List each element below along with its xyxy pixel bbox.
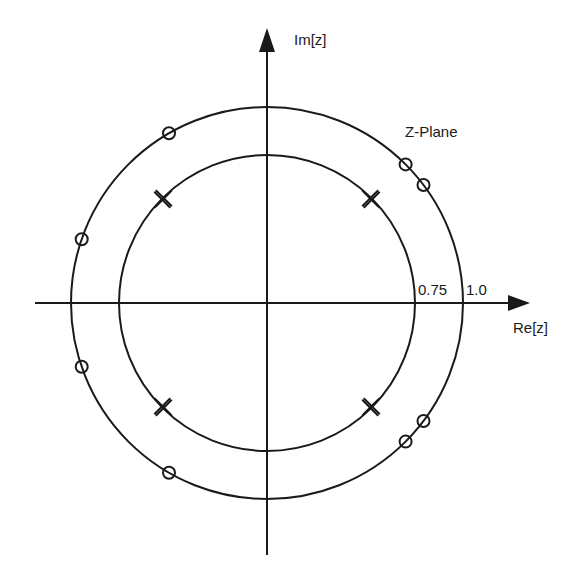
pole-marker-icon	[362, 190, 380, 208]
pole-marker-icon	[362, 398, 380, 416]
imag-axis-label: Im[z]	[294, 32, 327, 47]
pole-marker-icon	[154, 190, 172, 208]
real-axis-arrow-icon	[508, 295, 530, 311]
pole-marker-icon	[154, 398, 172, 416]
plane-title: Z-Plane	[405, 124, 458, 139]
axes	[35, 45, 515, 555]
outer-radius-label: 1.0	[466, 282, 487, 297]
z-plane-diagram	[0, 0, 582, 580]
inner-radius-label: 0.75	[418, 282, 447, 297]
imag-axis-arrow-icon	[259, 28, 275, 52]
real-axis-label: Re[z]	[513, 320, 548, 335]
